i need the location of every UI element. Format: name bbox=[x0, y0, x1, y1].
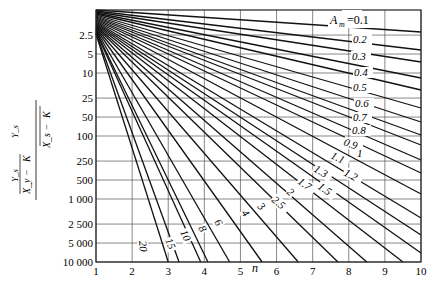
legend-value: =0.1 bbox=[347, 13, 369, 27]
curve-line bbox=[96, 32, 201, 262]
y-axis-title: Y_s X_y − K Y_s X_s − K bbox=[10, 100, 52, 200]
y-title-num-left: Y_s bbox=[10, 168, 20, 182]
y-tick-label: 250 bbox=[77, 155, 94, 167]
svg-text:0.5: 0.5 bbox=[353, 81, 367, 93]
curve-label: 0.7 bbox=[352, 111, 372, 123]
curve-line bbox=[96, 31, 208, 262]
y-tick-label: 50 bbox=[82, 111, 94, 123]
x-tick-labels: 12345678910 bbox=[93, 265, 427, 277]
curve-label: 6 bbox=[212, 216, 226, 229]
curve-label: 4 bbox=[239, 206, 253, 219]
x-tick-label: 7 bbox=[310, 265, 316, 277]
y-tick-label: 25 bbox=[82, 92, 94, 104]
svg-text:1: 1 bbox=[357, 147, 363, 159]
curve-label: 1 bbox=[356, 147, 364, 159]
y-tick-label: 5 bbox=[88, 48, 94, 60]
curve-labels: 0.10.20.30.40.50.60.70.80.911.11.21.31.5… bbox=[137, 9, 374, 254]
grid-lines bbox=[96, 10, 421, 262]
y-tick-label: 5 000 bbox=[68, 237, 93, 249]
x-tick-label: 5 bbox=[238, 265, 244, 277]
y-title-k-right: K bbox=[41, 110, 52, 119]
x-tick-label: 8 bbox=[346, 265, 352, 277]
curve-label: 2 bbox=[284, 185, 298, 199]
y-title-num-right: Y_s bbox=[10, 124, 20, 138]
curve-label: 20 bbox=[137, 239, 150, 254]
y-title-den-left: X_y − bbox=[21, 169, 32, 195]
curve-label: 0.8 bbox=[351, 124, 371, 136]
curve-label: 3 bbox=[255, 199, 269, 213]
curve-label: 0.5 bbox=[352, 81, 372, 93]
x-tick-label: 6 bbox=[274, 265, 280, 277]
curve-label: 0.4 bbox=[353, 66, 373, 78]
curve-label: 0.3 bbox=[351, 50, 371, 62]
y-tick-label: 10 bbox=[82, 67, 94, 79]
curve-line bbox=[96, 29, 262, 262]
y-tick-label: 2.5 bbox=[79, 29, 93, 41]
y-tick-label: 500 bbox=[77, 174, 94, 186]
svg-text:0.4: 0.4 bbox=[354, 66, 368, 78]
x-tick-label: 1 bbox=[93, 265, 99, 277]
x-axis-title: n bbox=[252, 261, 258, 275]
y-tick-label: 100 bbox=[77, 130, 94, 142]
legend-prefix: A m =0.1 bbox=[328, 12, 384, 29]
svg-text:0.6: 0.6 bbox=[355, 97, 369, 109]
legend-subscript: m bbox=[339, 20, 345, 29]
svg-text:0.7: 0.7 bbox=[353, 111, 367, 123]
y-title-den-right: X_s − bbox=[41, 124, 52, 149]
svg-text:0.3: 0.3 bbox=[352, 50, 366, 62]
x-tick-label: 2 bbox=[129, 265, 135, 277]
curve-label: 1.2 bbox=[341, 166, 364, 186]
legend-symbol: A bbox=[329, 13, 338, 27]
y-tick-label: 1 000 bbox=[68, 193, 93, 205]
svg-text:0.2: 0.2 bbox=[353, 33, 367, 45]
x-tick-label: 3 bbox=[165, 265, 171, 277]
curve-label: 0.2 bbox=[352, 33, 372, 45]
y-tick-labels: 2.551025501002505001 0002 5005 00010 000 bbox=[63, 29, 94, 268]
x-tick-label: 10 bbox=[416, 265, 428, 277]
curve-label: 15 bbox=[163, 235, 179, 252]
x-tick-label: 4 bbox=[202, 265, 208, 277]
y-tick-label: 10 000 bbox=[63, 256, 94, 268]
svg-text:20: 20 bbox=[137, 240, 150, 253]
curve-label: 0.6 bbox=[354, 97, 374, 109]
y-title-k-left: K bbox=[21, 154, 32, 163]
chart-canvas: 2.551025501002505001 0002 5005 00010 000… bbox=[0, 0, 436, 291]
x-tick-label: 9 bbox=[382, 265, 388, 277]
svg-text:0.8: 0.8 bbox=[352, 124, 366, 136]
curve-label: 1.1 bbox=[328, 149, 351, 168]
y-tick-label: 2 500 bbox=[68, 218, 93, 230]
